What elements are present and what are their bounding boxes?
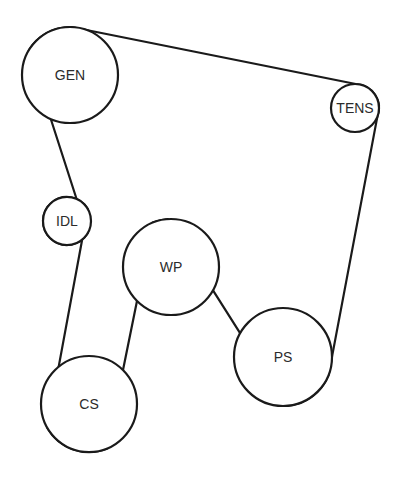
pulley-gen: GEN <box>22 27 118 123</box>
pulleys: GENTENSPSWPCSIDL <box>22 27 379 452</box>
belt-diagram: GENTENSPSWPCSIDL <box>0 0 399 480</box>
pulley-label-ps: PS <box>274 349 293 365</box>
pulley-label-gen: GEN <box>55 67 85 83</box>
pulley-tens: TENS <box>331 84 379 132</box>
pulley-label-idl: IDL <box>56 213 78 229</box>
pulley-idl: IDL <box>43 197 91 245</box>
pulley-ps: PS <box>234 308 332 406</box>
pulley-cs: CS <box>41 356 137 452</box>
pulley-wp: WP <box>123 219 219 315</box>
pulley-label-tens: TENS <box>336 100 373 116</box>
pulley-label-cs: CS <box>79 396 98 412</box>
pulley-label-wp: WP <box>160 259 183 275</box>
